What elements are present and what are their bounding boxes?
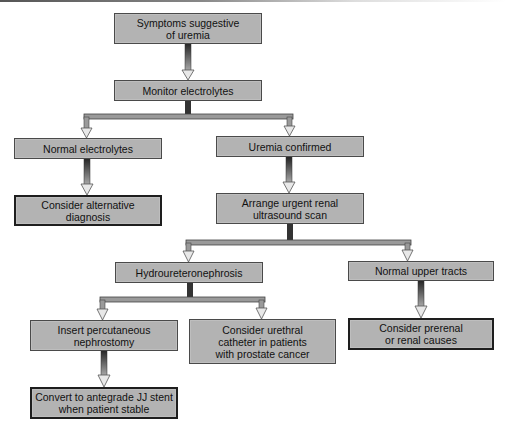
connector-monitor-split (81, 100, 295, 138)
node-uremia-confirmed: Uremia confirmed (216, 136, 364, 157)
node-normal-upper-tracts: Normal upper tracts (348, 261, 494, 281)
connector-nephrostomy-jjstent (98, 350, 110, 387)
node-monitor-electrolytes: Monitor electrolytes (114, 80, 262, 101)
node-normal-electrolytes: Normal electrolytes (14, 138, 162, 159)
connector-uremia-ultrasound (283, 157, 295, 193)
node-percutaneous-nephrostomy: Insert percutaneous nephrostomy (30, 320, 178, 351)
connector-ultrasound-split (183, 223, 413, 262)
connector-symptoms-monitor (182, 43, 194, 80)
connector-normalupper-prerenal (415, 280, 427, 318)
node-alternative-diagnosis: Consider alternative diagnosis (14, 195, 162, 226)
node-urethral-catheter: Consider urethral catheter in patients w… (189, 319, 336, 364)
connector-hydro-split (97, 282, 267, 320)
node-jj-stent: Convert to antegrade JJ stent when patie… (30, 387, 178, 419)
node-renal-ultrasound: Arrange urgent renal ultrasound scan (216, 193, 364, 224)
node-prerenal-causes: Consider prerenal or renal causes (348, 318, 494, 350)
node-hydroureteronephrosis: Hydroureteronephrosis (115, 262, 263, 283)
connector-normal-alternative (81, 158, 93, 195)
node-symptoms: Symptoms suggestive of uremia (114, 13, 262, 44)
